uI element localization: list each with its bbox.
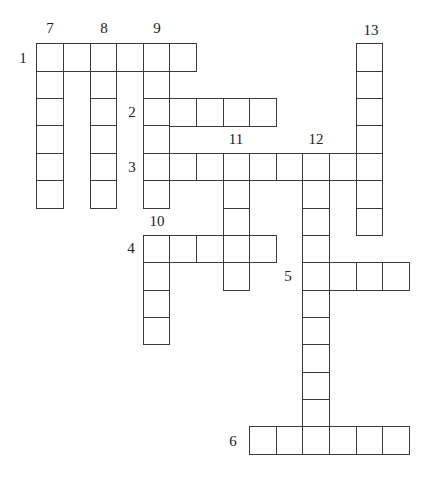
cell-input[interactable] (144, 99, 170, 125)
cell-input[interactable] (303, 291, 329, 317)
cell-input[interactable] (144, 291, 170, 317)
cell-input[interactable] (170, 44, 196, 70)
cell-input[interactable] (224, 154, 250, 180)
grid-cell[interactable] (356, 426, 384, 454)
cell-input[interactable] (37, 99, 63, 125)
grid-cell[interactable] (223, 235, 251, 263)
cell-input[interactable] (303, 181, 329, 207)
cell-input[interactable] (91, 154, 117, 180)
cell-input[interactable] (357, 99, 383, 125)
grid-cell[interactable] (302, 262, 330, 290)
cell-input[interactable] (144, 72, 170, 98)
cell-input[interactable] (91, 72, 117, 98)
grid-cell[interactable] (143, 235, 171, 263)
cell-input[interactable] (357, 209, 383, 235)
cell-input[interactable] (144, 181, 170, 207)
grid-cell[interactable] (143, 180, 171, 208)
cell-input[interactable] (303, 209, 329, 235)
cell-input[interactable] (197, 99, 223, 125)
cell-input[interactable] (224, 181, 250, 207)
cell-input[interactable] (330, 154, 356, 180)
grid-cell[interactable] (196, 153, 224, 181)
cell-input[interactable] (357, 72, 383, 98)
cell-input[interactable] (144, 318, 170, 344)
grid-cell[interactable] (302, 290, 330, 318)
cell-input[interactable] (197, 154, 223, 180)
grid-cell[interactable] (143, 317, 171, 345)
cell-input[interactable] (64, 44, 90, 70)
grid-cell[interactable] (90, 98, 118, 126)
grid-cell[interactable] (169, 43, 197, 71)
cell-input[interactable] (91, 44, 117, 70)
cell-input[interactable] (37, 181, 63, 207)
cell-input[interactable] (197, 236, 223, 262)
cell-input[interactable] (357, 181, 383, 207)
cell-input[interactable] (250, 236, 276, 262)
cell-input[interactable] (117, 44, 143, 70)
grid-cell[interactable] (329, 262, 357, 290)
grid-cell[interactable] (90, 153, 118, 181)
grid-cell[interactable] (223, 153, 251, 181)
cell-input[interactable] (357, 126, 383, 152)
cell-input[interactable] (250, 427, 276, 453)
grid-cell[interactable] (169, 98, 197, 126)
grid-cell[interactable] (143, 153, 171, 181)
grid-cell[interactable] (90, 71, 118, 99)
grid-cell[interactable] (169, 153, 197, 181)
cell-input[interactable] (303, 400, 329, 426)
cell-input[interactable] (330, 427, 356, 453)
grid-cell[interactable] (249, 153, 277, 181)
cell-input[interactable] (224, 209, 250, 235)
grid-cell[interactable] (276, 426, 304, 454)
grid-cell[interactable] (143, 290, 171, 318)
grid-cell[interactable] (302, 153, 330, 181)
grid-cell[interactable] (356, 125, 384, 153)
grid-cell[interactable] (223, 98, 251, 126)
cell-input[interactable] (357, 44, 383, 70)
cell-input[interactable] (37, 154, 63, 180)
grid-cell[interactable] (90, 125, 118, 153)
cell-input[interactable] (91, 126, 117, 152)
grid-cell[interactable] (356, 208, 384, 236)
grid-cell[interactable] (223, 180, 251, 208)
cell-input[interactable] (144, 154, 170, 180)
grid-cell[interactable] (356, 153, 384, 181)
cell-input[interactable] (144, 236, 170, 262)
cell-input[interactable] (303, 427, 329, 453)
grid-cell[interactable] (302, 372, 330, 400)
grid-cell[interactable] (302, 235, 330, 263)
grid-cell[interactable] (356, 98, 384, 126)
cell-input[interactable] (224, 236, 250, 262)
grid-cell[interactable] (36, 98, 64, 126)
cell-input[interactable] (170, 154, 196, 180)
grid-cell[interactable] (382, 426, 410, 454)
cell-input[interactable] (224, 263, 250, 289)
cell-input[interactable] (37, 126, 63, 152)
grid-cell[interactable] (302, 180, 330, 208)
cell-input[interactable] (357, 154, 383, 180)
cell-input[interactable] (170, 236, 196, 262)
grid-cell[interactable] (329, 153, 357, 181)
grid-cell[interactable] (90, 180, 118, 208)
grid-cell[interactable] (36, 43, 64, 71)
cell-input[interactable] (303, 373, 329, 399)
grid-cell[interactable] (329, 426, 357, 454)
cell-input[interactable] (37, 72, 63, 98)
cell-input[interactable] (303, 318, 329, 344)
grid-cell[interactable] (63, 43, 91, 71)
grid-cell[interactable] (36, 71, 64, 99)
cell-input[interactable] (250, 154, 276, 180)
grid-cell[interactable] (249, 98, 277, 126)
grid-cell[interactable] (196, 98, 224, 126)
cell-input[interactable] (224, 99, 250, 125)
cell-input[interactable] (303, 236, 329, 262)
grid-cell[interactable] (143, 71, 171, 99)
grid-cell[interactable] (356, 180, 384, 208)
grid-cell[interactable] (223, 208, 251, 236)
grid-cell[interactable] (143, 43, 171, 71)
grid-cell[interactable] (276, 153, 304, 181)
cell-input[interactable] (383, 263, 409, 289)
grid-cell[interactable] (36, 125, 64, 153)
grid-cell[interactable] (196, 235, 224, 263)
cell-input[interactable] (37, 44, 63, 70)
